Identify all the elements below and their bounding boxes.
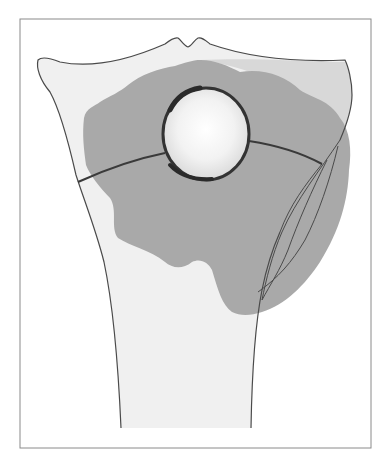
bone-diagram: [0, 0, 388, 468]
